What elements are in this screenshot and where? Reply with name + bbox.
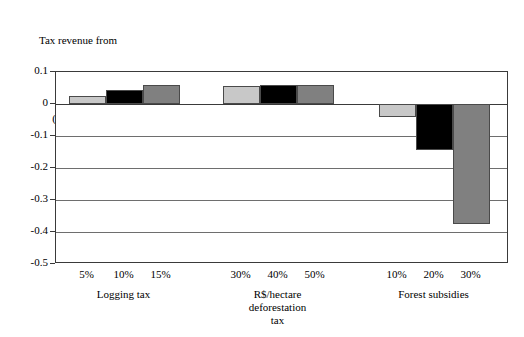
bar [453,104,490,224]
y-tick-label: -0.4 [4,225,48,236]
y-tick-mark [50,103,55,104]
y-tick-label: 0.1 [4,65,48,76]
y-tick-label: -0.1 [4,129,48,140]
group-label-line: Forest subsidies [359,288,509,301]
y-tick-mark [50,231,55,232]
bar [297,85,334,104]
y-tick-label: -0.3 [4,193,48,204]
bar [143,85,180,104]
y-tick-mark [50,135,55,136]
gridline [56,232,507,233]
y-tick-label: -0.2 [4,161,48,172]
y-tick-label: -0.5 [4,257,48,268]
group-label: Logging tax [49,288,199,301]
bar [260,85,297,104]
x-tick-label: 30% [449,268,493,280]
gridline [56,168,507,169]
group-label: R$/hectaredeforestationtax [203,288,353,327]
x-tick-label: 15% [139,268,183,280]
bar [69,96,106,104]
y-tick-mark [50,71,55,72]
plot-area [55,71,508,263]
bar [106,90,143,104]
y-tick-label: 0 [4,97,48,108]
group-label: Forest subsidies [359,288,509,301]
bar [223,86,260,104]
gridline [56,200,507,201]
group-label-line: Logging tax [49,288,199,301]
y-axis-title-line-1: Tax revenue from [8,34,148,47]
group-label-line: tax [203,314,353,327]
bar [379,104,416,117]
y-tick-mark [50,199,55,200]
y-tick-mark [50,167,55,168]
group-label-line: R$/hectare [203,288,353,301]
bar [416,104,453,150]
y-tick-mark [50,263,55,264]
x-tick-label: 50% [293,268,337,280]
group-label-line: deforestation [203,301,353,314]
